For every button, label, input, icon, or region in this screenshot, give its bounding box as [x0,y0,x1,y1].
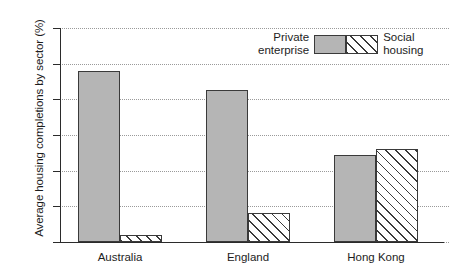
chart-legend: Private enterprise Social housing [258,26,423,62]
legend-label-social-housing: Social housing [383,31,423,58]
bar-england-private-enterprise [206,90,248,242]
bar-australia-social-housing [120,235,162,242]
x-axis-line [60,242,444,243]
legend-swatch-private-enterprise [314,35,346,54]
legend-label-private-enterprise: Private enterprise [258,31,309,58]
y-axis-title: Average housing completions by sector (%… [33,13,45,243]
legend-swatch-social-housing [346,35,378,54]
x-category-label-hong-kong: Hong Kong [306,251,446,263]
legend-swatch-pair [314,35,378,54]
x-category-label-england: England [178,251,318,263]
bar-australia-private-enterprise [78,71,120,242]
bar-england-social-housing [248,213,290,242]
bar-chart: Average housing completions by sector (%… [0,0,449,270]
bar-hong-kong-private-enterprise [334,155,376,242]
x-category-label-australia: Australia [50,251,190,263]
bar-hong-kong-social-housing [376,149,418,242]
